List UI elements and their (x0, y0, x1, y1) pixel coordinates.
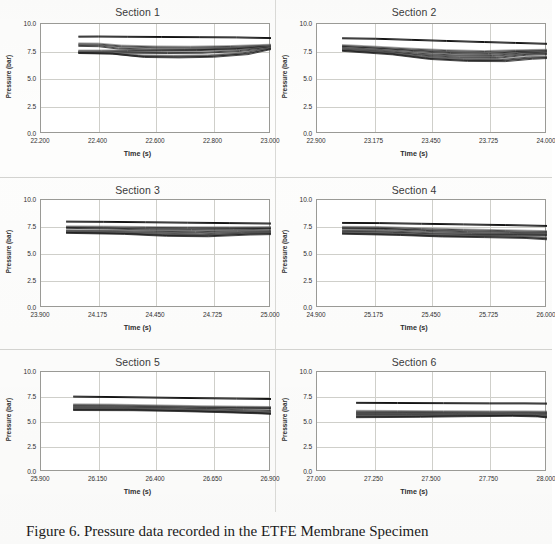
x-tick-label: 24.175 (88, 311, 107, 318)
x-tick-label: 24.900 (307, 311, 326, 318)
x-tick-label: 26.650 (203, 475, 222, 482)
trace-layer-5 (41, 372, 271, 472)
x-tick-label: 27.000 (307, 475, 326, 482)
chart-panel-4: Section 40.02.55.07.510.024.90025.17525.… (276, 178, 552, 350)
x-tick-label: 22.900 (307, 137, 326, 144)
plot-frame-3 (40, 199, 270, 307)
x-axis-title: Time (s) (276, 487, 552, 496)
y-tick-label: 10.0 (276, 368, 312, 375)
x-tick-label: 27.500 (422, 475, 441, 482)
x-tick-label: 24.725 (203, 311, 222, 318)
trace-layer-6 (317, 372, 547, 472)
chart-panel-5: Section 50.02.55.07.510.025.90026.15026.… (0, 350, 276, 512)
y-tick-label: 0.0 (276, 468, 312, 475)
trace-layer-1 (41, 24, 271, 134)
y-tick-label: 0.0 (0, 130, 36, 137)
x-tick-label: 26.400 (146, 475, 165, 482)
y-tick-label: 10.0 (276, 20, 312, 27)
chart-panel-1: Section 10.02.55.07.510.022.20022.40022.… (0, 0, 276, 178)
x-tick-label: 22.400 (88, 137, 107, 144)
y-tick-label: 10.0 (0, 20, 36, 27)
y-axis-title: Pressure (bar) (281, 216, 288, 288)
data-trace (342, 39, 547, 45)
y-tick-label: 10.0 (276, 196, 312, 203)
x-tick-label: 25.175 (364, 311, 383, 318)
y-axis-title: Pressure (bar) (281, 41, 288, 113)
y-axis-title: Pressure (bar) (5, 384, 12, 456)
x-tick-label: 23.900 (31, 311, 50, 318)
plot-frame-5 (40, 371, 270, 471)
x-tick-label: 24.000 (537, 137, 555, 144)
x-axis-title: Time (s) (0, 323, 275, 332)
plot-area-3: 0.02.55.07.510.023.90024.17524.45024.725… (0, 178, 275, 349)
x-tick-label: 24.450 (146, 311, 165, 318)
x-tick-label: 25.450 (422, 311, 441, 318)
x-tick-label: 22.200 (31, 137, 50, 144)
x-tick-label: 26.000 (537, 311, 555, 318)
y-tick-label: 10.0 (0, 196, 36, 203)
trace-layer-3 (41, 200, 271, 308)
x-tick-label: 22.600 (146, 137, 165, 144)
x-tick-label: 27.750 (479, 475, 498, 482)
y-tick-label: 0.0 (0, 468, 36, 475)
x-tick-label: 23.175 (364, 137, 383, 144)
chart-panel-6: Section 60.02.55.07.510.027.00027.25027.… (276, 350, 552, 512)
x-tick-label: 25.900 (31, 475, 50, 482)
figure-caption: Figure 6. Pressure data recorded in the … (26, 520, 526, 544)
y-axis-title: Pressure (bar) (5, 41, 12, 113)
figure-panel-grid: Section 10.02.55.07.510.022.20022.40022.… (0, 0, 552, 512)
y-tick-label: 10.0 (0, 368, 36, 375)
plot-area-1: 0.02.55.07.510.022.20022.40022.60022.800… (0, 0, 275, 177)
y-axis-title: Pressure (bar) (5, 216, 12, 288)
y-axis-title: Pressure (bar) (281, 384, 288, 456)
x-axis-title: Time (s) (0, 487, 275, 496)
x-axis-title: Time (s) (0, 149, 275, 158)
x-tick-label: 28.000 (537, 475, 555, 482)
plot-area-5: 0.02.55.07.510.025.90026.15026.40026.650… (0, 350, 275, 512)
chart-panel-3: Section 30.02.55.07.510.023.90024.17524.… (0, 178, 276, 350)
trace-layer-2 (317, 24, 547, 134)
x-tick-label: 25.725 (479, 311, 498, 318)
x-tick-label: 27.250 (364, 475, 383, 482)
data-trace (356, 403, 547, 404)
chart-panel-2: Section 20.02.55.07.510.022.90023.17523.… (276, 0, 552, 178)
y-tick-label: 0.0 (0, 304, 36, 311)
x-tick-label: 26.150 (88, 475, 107, 482)
plot-frame-6 (316, 371, 546, 471)
x-tick-label: 23.450 (422, 137, 441, 144)
plot-frame-2 (316, 23, 546, 133)
x-tick-label: 22.800 (203, 137, 222, 144)
trace-layer-4 (317, 200, 547, 308)
plot-area-4: 0.02.55.07.510.024.90025.17525.45025.725… (276, 178, 552, 349)
y-tick-label: 0.0 (276, 304, 312, 311)
y-tick-label: 0.0 (276, 130, 312, 137)
plot-frame-4 (316, 199, 546, 307)
plot-area-2: 0.02.55.07.510.022.90023.17523.45023.725… (276, 0, 552, 177)
x-axis-title: Time (s) (276, 149, 552, 158)
plot-area-6: 0.02.55.07.510.027.00027.25027.50027.750… (276, 350, 552, 512)
x-axis-title: Time (s) (276, 323, 552, 332)
plot-frame-1 (40, 23, 270, 133)
x-tick-label: 23.725 (479, 137, 498, 144)
